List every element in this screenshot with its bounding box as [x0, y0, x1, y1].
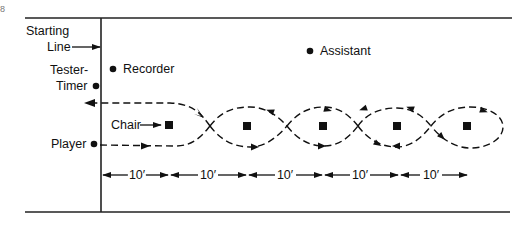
assistant-dot — [307, 48, 314, 55]
player-dot — [91, 141, 98, 148]
recorder-dot — [110, 66, 117, 73]
chair-label: Chair — [111, 118, 141, 132]
chair-1-icon — [165, 121, 173, 129]
line-label: Line — [47, 40, 71, 54]
chair-4-icon — [393, 122, 401, 130]
tester-timer-dot — [93, 83, 100, 90]
chair-2-icon — [243, 122, 251, 130]
agility-run-diagram: 8 — [0, 0, 532, 228]
diagram-canvas — [0, 0, 532, 228]
assistant-label: Assistant — [320, 44, 371, 58]
dimension-label-1: 10′ — [128, 168, 146, 182]
starting-label: Starting — [26, 24, 69, 38]
dimension-label-3: 10′ — [276, 168, 294, 182]
timer-label: Timer — [56, 79, 87, 93]
dimension-label-2: 10′ — [199, 168, 217, 182]
tester-label: Tester- — [50, 63, 88, 77]
dimension-label-5: 10′ — [422, 168, 440, 182]
dimension-label-4: 10′ — [351, 168, 369, 182]
return-arrow-head — [84, 99, 95, 107]
player-label: Player — [51, 137, 86, 151]
recorder-label: Recorder — [123, 62, 174, 76]
chair-3-icon — [319, 122, 327, 130]
chair-5-icon — [463, 122, 471, 130]
